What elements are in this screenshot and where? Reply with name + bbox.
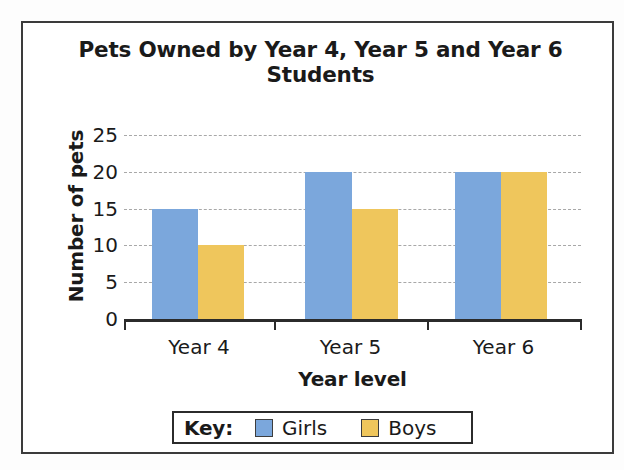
bar-year-6-girls <box>455 172 501 319</box>
x-axis-title: Year level <box>124 367 581 391</box>
x-axis-tick-label-year-6: Year 6 <box>427 335 580 359</box>
x-axis-tick <box>274 319 276 330</box>
bar-year-6-boys <box>501 172 547 319</box>
legend-label-boys: Boys <box>388 416 436 440</box>
x-axis-tick <box>427 319 429 330</box>
y-axis-tick-label: 10 <box>72 233 118 257</box>
x-axis-tick <box>580 319 582 330</box>
bar-year-4-girls <box>152 209 198 319</box>
y-axis-tick-labels: 0510152025 <box>68 135 118 319</box>
bar-chart-figure: Pets Owned by Year 4, Year 5 and Year 6 … <box>0 0 624 470</box>
legend-key-label: Key: <box>184 416 233 440</box>
legend-label-girls: Girls <box>282 416 327 440</box>
legend-entry-girls: Girls <box>255 416 327 440</box>
y-axis-tick-label: 0 <box>72 307 118 331</box>
y-axis-tick-label: 25 <box>72 123 118 147</box>
plot-area <box>124 135 581 319</box>
chart-title-line-1: Pets Owned by Year 4, Year 5 and Year 6 <box>63 37 578 62</box>
chart-title-line-2: Students <box>63 62 578 87</box>
legend-entries: GirlsBoys <box>255 416 436 440</box>
x-axis-tick-label-year-4: Year 4 <box>124 335 274 359</box>
legend-swatch-girls <box>255 419 273 437</box>
x-axis-line <box>124 319 581 322</box>
gridline <box>124 135 581 136</box>
chart-title: Pets Owned by Year 4, Year 5 and Year 6 … <box>63 37 578 87</box>
y-axis-tick-label: 15 <box>72 197 118 221</box>
y-axis-tick-label: 20 <box>72 160 118 184</box>
chart-frame: Pets Owned by Year 4, Year 5 and Year 6 … <box>21 21 614 454</box>
legend-entry-boys: Boys <box>361 416 436 440</box>
y-axis-tick-label: 5 <box>72 270 118 294</box>
bar-year-4-boys <box>198 245 244 319</box>
x-axis-tick <box>124 319 126 330</box>
bar-year-5-girls <box>305 172 352 319</box>
x-axis-tick-label-year-5: Year 5 <box>274 335 427 359</box>
bar-year-5-boys <box>352 209 398 319</box>
legend-box: Key: GirlsBoys <box>172 411 473 444</box>
legend-swatch-boys <box>361 419 379 437</box>
